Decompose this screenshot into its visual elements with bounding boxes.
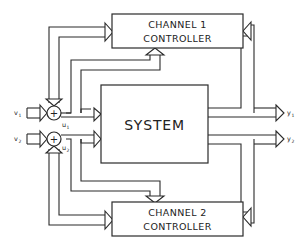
arrow-head-icon (40, 131, 47, 147)
svg-text:u: u (62, 144, 66, 152)
arrow-head-icon (146, 48, 164, 55)
svg-text:v: v (14, 135, 18, 143)
svg-text:+: + (50, 134, 58, 145)
arrow-head-icon (94, 131, 101, 147)
arrow-head-icon (94, 108, 101, 121)
svg-text:1: 1 (292, 113, 295, 118)
system-block: SYSTEM (101, 85, 208, 163)
output-y2 (208, 131, 284, 147)
summing-junction-2: + (47, 132, 61, 146)
u1-to-system (61, 108, 101, 121)
arrow-head-icon (276, 105, 284, 121)
label-y2: y 2 (287, 135, 295, 144)
arrow-head-icon (243, 22, 251, 40)
output-y1 (208, 105, 284, 121)
label-y1: y 1 (287, 109, 295, 118)
label-v2: v 2 (14, 135, 22, 144)
channel2-title: CHANNEL 2 (148, 207, 206, 218)
summing-junction-1: + (47, 106, 61, 120)
arrow-head-icon (46, 146, 62, 153)
arrow-head-icon (40, 105, 47, 121)
svg-text:+: + (50, 108, 58, 119)
arrow-head-icon (243, 208, 251, 226)
svg-text:y: y (287, 109, 291, 117)
label-u1: u 1 (62, 121, 70, 130)
svg-text:2: 2 (19, 139, 22, 144)
channel1-title: CHANNEL 1 (148, 19, 206, 30)
channel1-controller: CHANNEL 1 CONTROLLER (112, 14, 243, 48)
channel1-subtitle: CONTROLLER (143, 33, 211, 44)
svg-text:2: 2 (292, 139, 295, 144)
arrow-head-icon (46, 99, 62, 106)
label-u2: u 2 (62, 144, 70, 153)
svg-text:1: 1 (19, 113, 22, 118)
system-label: SYSTEM (124, 117, 185, 133)
channel2-controller: CHANNEL 2 CONTROLLER (112, 202, 243, 236)
svg-text:2: 2 (67, 148, 70, 153)
svg-text:v: v (14, 109, 18, 117)
channel2-subtitle: CONTROLLER (143, 221, 211, 232)
input-v2 (27, 131, 47, 147)
input-v1 (27, 105, 47, 121)
svg-text:1: 1 (67, 125, 70, 130)
svg-text:y: y (287, 135, 291, 143)
arrow-head-icon (276, 131, 284, 147)
svg-text:u: u (62, 121, 66, 129)
two-channel-control-diagram: + + SYSTEM CHANNEL 1 CONTROLLER CHANNEL … (0, 0, 308, 247)
label-v1: v 1 (14, 109, 22, 118)
